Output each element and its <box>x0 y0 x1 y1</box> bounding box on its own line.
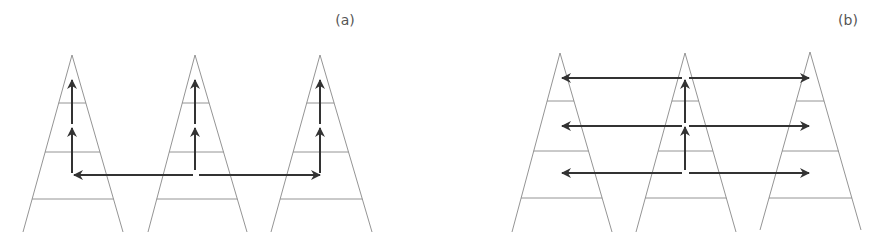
panel-b-label: (b) <box>838 12 858 28</box>
pyramid-outline <box>148 55 247 232</box>
pyramid-diagram: (a) (b) <box>0 0 886 241</box>
pyramid <box>512 53 612 232</box>
panel-a-label: (a) <box>335 12 355 28</box>
panel-b <box>512 52 861 232</box>
panel-a <box>23 55 372 232</box>
pyramid <box>271 55 372 232</box>
pyramid <box>148 55 247 232</box>
pyramid-outline <box>271 55 372 232</box>
pyramid-outline <box>512 53 612 232</box>
